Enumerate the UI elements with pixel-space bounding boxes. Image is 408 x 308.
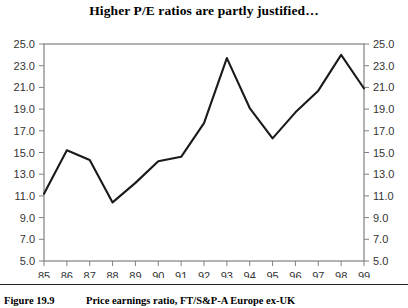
figure-caption: Figure 19.9Price earnings ratio, FT/S&P-… xyxy=(0,284,408,308)
y-axis-left-tick-label: 5.0 xyxy=(20,255,35,267)
x-axis-tick-label: 97 xyxy=(312,270,324,278)
caption-inner: Figure 19.9Price earnings ratio, FT/S&P-… xyxy=(4,290,404,308)
caption-description: Price earnings ratio, FT/S&P-A Europe ex… xyxy=(86,295,295,306)
y-axis-left-tick-label: 19.0 xyxy=(14,103,35,115)
x-axis-tick-label: 92 xyxy=(198,270,210,278)
y-axis-left-tick-label: 21.0 xyxy=(14,81,35,93)
x-axis-tick-label: 86 xyxy=(61,270,73,278)
y-axis-left-tick-label: 13.0 xyxy=(14,168,35,180)
figure-container: Higher P/E ratios are partly justified… … xyxy=(0,0,408,308)
y-axis-right-tick-label: 5.0 xyxy=(373,255,388,267)
y-axis-left-tick-label: 9.0 xyxy=(20,212,35,224)
y-axis-left-tick-label: 25.0 xyxy=(14,38,35,50)
page-title: Higher P/E ratios are partly justified… xyxy=(0,3,408,19)
y-axis-right-tick-label: 19.0 xyxy=(373,103,394,115)
x-axis-labels: 858687888990919293949596979899 xyxy=(38,270,370,278)
x-axis-tick-label: 96 xyxy=(289,270,301,278)
y-axis-right-tick-label: 17.0 xyxy=(373,125,394,137)
x-axis-tick-label: 98 xyxy=(335,270,347,278)
plot-frame xyxy=(44,44,364,261)
y-axis-left-tick-label: 23.0 xyxy=(14,60,35,72)
x-axis-tick-label: 88 xyxy=(106,270,118,278)
data-series-line xyxy=(44,55,364,203)
x-axis-tick-label: 94 xyxy=(244,270,256,278)
y-axis-right-ticks xyxy=(364,44,369,261)
y-axis-left-labels: 5.07.09.011.013.015.017.019.021.023.025.… xyxy=(14,38,35,267)
x-axis-tick-label: 90 xyxy=(152,270,164,278)
y-axis-right-tick-label: 9.0 xyxy=(373,212,388,224)
y-axis-right-tick-label: 23.0 xyxy=(373,60,394,72)
y-axis-right-tick-label: 21.0 xyxy=(373,81,394,93)
y-axis-right-tick-label: 13.0 xyxy=(373,168,394,180)
line-chart-svg: 5.07.09.011.013.015.017.019.021.023.025.… xyxy=(0,26,408,278)
y-axis-left-tick-label: 11.0 xyxy=(14,190,35,202)
x-axis-ticks xyxy=(44,261,364,266)
x-axis-tick-label: 87 xyxy=(84,270,96,278)
y-axis-left-tick-label: 15.0 xyxy=(14,147,35,159)
x-axis-tick-label: 95 xyxy=(266,270,278,278)
plot-area: 5.07.09.011.013.015.017.019.021.023.025.… xyxy=(0,26,408,278)
x-axis-tick-label: 91 xyxy=(175,270,187,278)
y-axis-right-tick-label: 15.0 xyxy=(373,147,394,159)
y-axis-left-tick-label: 17.0 xyxy=(14,125,35,137)
x-axis-tick-label: 99 xyxy=(358,270,370,278)
x-axis-tick-label: 89 xyxy=(129,270,141,278)
x-axis-tick-label: 93 xyxy=(221,270,233,278)
y-axis-right-tick-label: 7.0 xyxy=(373,233,388,245)
y-axis-right-tick-label: 11.0 xyxy=(373,190,394,202)
x-axis-tick-label: 85 xyxy=(38,270,50,278)
y-axis-right-tick-label: 25.0 xyxy=(373,38,394,50)
y-axis-left-tick-label: 7.0 xyxy=(20,233,35,245)
y-axis-right-labels: 5.07.09.011.013.015.017.019.021.023.025.… xyxy=(373,38,394,267)
caption-figure-number: Figure 19.9 xyxy=(4,295,86,306)
y-axis-left-ticks xyxy=(39,44,44,261)
